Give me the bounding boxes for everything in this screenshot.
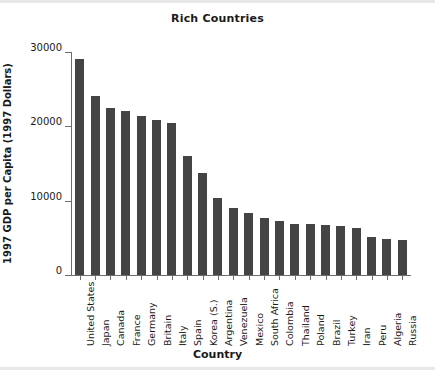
x-tick-label: Canada bbox=[104, 280, 116, 346]
x-tick-label: Colombia bbox=[273, 280, 285, 346]
bar bbox=[382, 239, 391, 275]
x-tick-mark bbox=[249, 276, 250, 280]
bar bbox=[91, 96, 100, 275]
y-tick-label: 30000 bbox=[0, 47, 62, 48]
x-tick-label: Peru bbox=[366, 280, 378, 346]
x-tick-mark bbox=[279, 276, 280, 280]
x-tick-mark bbox=[110, 276, 111, 280]
x-tick-mark bbox=[218, 276, 219, 280]
x-tick-label: Venezuela bbox=[227, 280, 239, 346]
y-tick-mark bbox=[65, 275, 71, 276]
x-tick-label: France bbox=[120, 280, 132, 346]
y-tick-mark bbox=[65, 52, 71, 53]
x-tick-label: South Africa bbox=[258, 280, 270, 346]
x-tick-mark bbox=[187, 276, 188, 280]
bar bbox=[213, 198, 222, 275]
x-tick-label: Korea (S.) bbox=[197, 280, 209, 346]
bar bbox=[321, 225, 330, 275]
bar bbox=[198, 173, 207, 275]
bar bbox=[290, 224, 299, 275]
bar bbox=[167, 123, 176, 275]
x-tick-mark bbox=[233, 276, 234, 280]
x-tick-label: United States bbox=[74, 280, 86, 346]
bar bbox=[229, 208, 238, 275]
x-tick-mark bbox=[172, 276, 173, 280]
x-tick-label: Italy bbox=[166, 280, 178, 346]
bar bbox=[152, 120, 161, 275]
x-tick-mark bbox=[372, 276, 373, 280]
bar bbox=[352, 228, 361, 275]
bar bbox=[75, 59, 84, 275]
x-tick-label: Turkey bbox=[335, 280, 347, 346]
x-tick-label: Thailand bbox=[289, 280, 301, 346]
bar bbox=[275, 221, 284, 275]
bar-series bbox=[72, 52, 410, 275]
bar bbox=[367, 237, 376, 275]
x-tick-mark bbox=[310, 276, 311, 280]
x-tick-label: Mexico bbox=[243, 280, 255, 346]
x-tick-mark bbox=[341, 276, 342, 280]
bar bbox=[260, 218, 269, 275]
x-tick-label: Britain bbox=[151, 280, 163, 346]
x-tick-label: Russia bbox=[396, 280, 408, 346]
x-tick-label: Iran bbox=[350, 280, 362, 346]
chart-title: Rich Countries bbox=[0, 12, 435, 25]
y-tick-label: 0 bbox=[0, 270, 62, 271]
x-tick-mark bbox=[95, 276, 96, 280]
x-tick-mark bbox=[203, 276, 204, 280]
x-tick-label: Argentina bbox=[212, 280, 224, 346]
x-tick-mark bbox=[264, 276, 265, 280]
bar bbox=[183, 156, 192, 275]
x-tick-label: Algeria bbox=[381, 280, 393, 346]
bar bbox=[137, 116, 146, 275]
bar bbox=[398, 240, 407, 275]
x-tick-label: Poland bbox=[304, 280, 316, 346]
x-tick-label: Japan bbox=[89, 280, 101, 346]
x-axis-label: Country bbox=[0, 348, 435, 361]
chart-page: Rich Countries 1997 GDP per Capita (1997… bbox=[0, 0, 435, 370]
x-tick-mark bbox=[402, 276, 403, 280]
bar bbox=[106, 108, 115, 275]
y-tick-mark bbox=[65, 126, 71, 127]
bar bbox=[306, 224, 315, 275]
y-tick-mark bbox=[65, 201, 71, 202]
x-tick-mark bbox=[356, 276, 357, 280]
bar bbox=[121, 111, 130, 275]
bar bbox=[336, 226, 345, 275]
x-tick-mark bbox=[141, 276, 142, 280]
y-tick-label: 10000 bbox=[0, 196, 62, 197]
y-axis-label: 1997 GDP per Capita (1997 Dollars) bbox=[2, 52, 16, 275]
x-tick-label: Spain bbox=[181, 280, 193, 346]
x-tick-mark bbox=[157, 276, 158, 280]
y-tick-label: 20000 bbox=[0, 121, 62, 122]
x-tick-mark bbox=[295, 276, 296, 280]
x-tick-mark bbox=[387, 276, 388, 280]
bar bbox=[244, 213, 253, 275]
x-tick-mark bbox=[326, 276, 327, 280]
x-tick-label: Brazil bbox=[320, 280, 332, 346]
x-tick-label: Germany bbox=[135, 280, 147, 346]
x-tick-mark bbox=[126, 276, 127, 280]
x-tick-label-text: Russia bbox=[407, 280, 418, 346]
x-tick-mark bbox=[80, 276, 81, 280]
